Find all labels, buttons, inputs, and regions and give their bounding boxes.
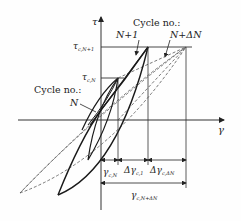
tau-axis-label: τ bbox=[92, 16, 98, 27]
leader-n-plus-1 bbox=[136, 40, 139, 55]
tau-cN1-label: τc,N+1 bbox=[73, 41, 94, 52]
cycle-n-plus-delta-n-label: N+ΔN bbox=[169, 29, 202, 40]
dim-delta-gamma-cdN: Δγc,ΔN bbox=[149, 165, 175, 176]
cycle-n-plus-1-label: N+1 bbox=[115, 29, 138, 40]
gamma-axis-label: γ bbox=[218, 124, 224, 135]
dim-delta-gamma-c1: Δγc,1 bbox=[123, 165, 143, 176]
dim-gamma-cN: γc,N bbox=[103, 167, 118, 178]
cycle-n-label: N bbox=[69, 97, 79, 108]
cycle-heading-left: Cycle no.: bbox=[34, 84, 82, 95]
tau-cN-label: τc,N bbox=[82, 72, 96, 83]
hysteresis-diagram: τ γ τc,N+1 τc,N Cycle no.: N+1 N+ΔN Cycl… bbox=[0, 0, 241, 221]
cycle-heading-top: Cycle no.: bbox=[133, 17, 181, 28]
diagram-svg: τ γ τc,N+1 τc,N Cycle no.: N+1 N+ΔN Cycl… bbox=[0, 0, 241, 221]
dim-gamma-cNdN: γc,N+ΔN bbox=[131, 190, 158, 201]
